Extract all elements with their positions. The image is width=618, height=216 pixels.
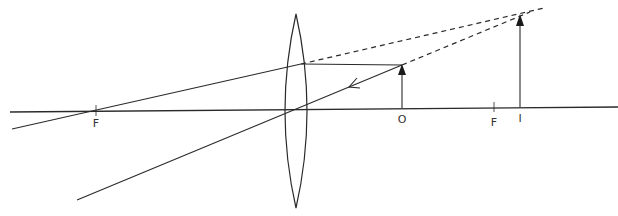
virtual-ray-parallel-extension xyxy=(301,8,544,64)
label-object: O xyxy=(398,114,407,125)
virtual-ray-central-extension xyxy=(402,12,530,65)
ray-central xyxy=(77,65,402,200)
label-focal-left: F xyxy=(93,118,99,129)
label-image: I xyxy=(518,113,521,124)
ray-parallel-refracted xyxy=(12,64,301,129)
label-focal-right: F xyxy=(491,117,497,128)
ray-parallel-incident xyxy=(301,64,402,65)
ray-diagram xyxy=(0,0,618,216)
convex-lens xyxy=(285,14,307,208)
